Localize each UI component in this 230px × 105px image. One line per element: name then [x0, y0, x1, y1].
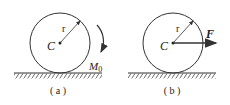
moment-arrow-icon [97, 25, 103, 52]
radius-label: r [176, 23, 180, 34]
ground-hatch [14, 74, 102, 79]
force-label: F [205, 27, 214, 41]
diagram-canvas: r C M0 ( a ) r C F ( b ) [0, 0, 230, 105]
figure-a: r C M0 ( a ) [14, 13, 103, 97]
caption-b: ( b ) [164, 85, 181, 97]
center-label: C [47, 39, 56, 53]
figure-b: r C F ( b ) [128, 13, 216, 97]
caption-a: ( a ) [50, 85, 66, 97]
ground-hatch [128, 74, 216, 79]
moment-label: M0 [88, 60, 102, 74]
center-label: C [160, 39, 169, 53]
radius-label: r [62, 23, 66, 34]
